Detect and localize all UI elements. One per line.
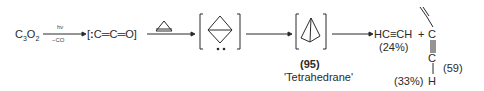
vinylacetylene-c-top: C xyxy=(428,28,436,40)
intermediate-carbon-suboxide-fragment: [:C═C═O] xyxy=(87,28,137,40)
equation-number: (59) xyxy=(443,62,463,74)
vinylacetylene-h: H xyxy=(428,75,436,87)
reactant-sub2: 2 xyxy=(35,35,39,42)
tetrahedrane-label: 'Tetrahedrane' xyxy=(284,71,353,83)
compound-number-95: (95) xyxy=(300,58,320,70)
acetylene-yield: (24%) xyxy=(379,41,408,53)
step1-condition-above: hν xyxy=(57,24,63,30)
reactant-c: C xyxy=(15,28,23,40)
plus-sign: + xyxy=(418,28,424,40)
reactant-c3o2: C3O2 xyxy=(15,28,39,42)
step1-condition-below: −CO xyxy=(52,37,65,43)
bracket-close: ] xyxy=(134,28,137,40)
acetylene-formula: HC≡CH xyxy=(374,28,412,40)
vinylacetylene-c-bottom: C xyxy=(428,52,436,64)
vinylacetylene-yield: (33%) xyxy=(394,75,423,87)
ketenylidene-formula: C═C═O xyxy=(94,28,134,40)
